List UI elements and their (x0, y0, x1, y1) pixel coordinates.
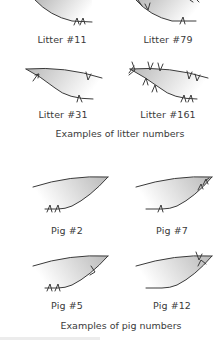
ear-pig-5 (33, 256, 108, 291)
cropped-figure-label (0, 337, 100, 340)
label-pig-5: Pig #5 (51, 300, 83, 311)
ear-litter-79 (136, 0, 200, 24)
ear-pig-2 (33, 177, 108, 212)
ear-litter-11 (35, 0, 92, 25)
ear-pig-7 (136, 177, 212, 212)
label-pig-7: Pig #7 (156, 225, 188, 236)
ear-pig-12 (136, 252, 212, 289)
caption-pig-numbers: Examples of pig numbers (60, 320, 181, 331)
ear-litter-161 (129, 62, 208, 102)
caption-litter-numbers: Examples of litter numbers (56, 128, 185, 139)
label-litter-11: Litter #11 (37, 34, 86, 45)
label-pig-12: Pig #12 (153, 300, 191, 311)
label-litter-161: Litter #161 (140, 109, 195, 120)
notch-marks (129, 62, 135, 75)
label-pig-2: Pig #2 (51, 225, 83, 236)
ear-litter-31 (26, 68, 102, 102)
ear-notch-illustration (0, 0, 219, 341)
label-litter-31: Litter #31 (38, 109, 87, 120)
label-litter-79: Litter #79 (143, 34, 192, 45)
